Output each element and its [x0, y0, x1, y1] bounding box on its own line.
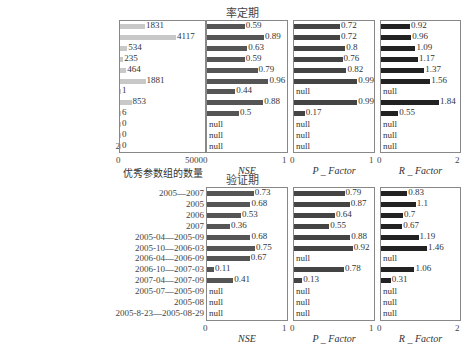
- bottom-title: 验证期: [226, 171, 259, 187]
- axis-label: P _ Factor: [293, 333, 375, 344]
- data-bar: [381, 35, 411, 40]
- data-bar: [120, 35, 176, 40]
- value-label: 464: [127, 64, 141, 74]
- data-bar: [207, 278, 233, 283]
- row-label: 2005-10—2006-03: [135, 243, 204, 253]
- value-label: 0.59: [246, 53, 262, 63]
- axis-tick: 0: [290, 323, 295, 333]
- null-label: null: [383, 141, 397, 151]
- null-label: null: [296, 141, 310, 151]
- value-label: 0.79: [259, 64, 275, 74]
- axis-tick: 0: [377, 323, 382, 333]
- top-title: 率定期: [226, 4, 259, 20]
- value-label: 0.68: [251, 231, 267, 241]
- axis-tick: 5000: [185, 155, 203, 165]
- data-bar: [294, 35, 340, 40]
- data-bar: [207, 246, 255, 251]
- null-label: null: [296, 86, 310, 96]
- data-bar: [207, 46, 247, 51]
- data-bar: [381, 46, 415, 51]
- value-label: 0.76: [344, 53, 360, 63]
- data-bar: [207, 111, 239, 116]
- data-bar: [207, 202, 250, 207]
- value-label: 1.84: [440, 96, 456, 106]
- data-bar: [381, 57, 418, 62]
- row-label: 2007-04—2007-09: [135, 275, 204, 285]
- null-label: null: [209, 297, 223, 307]
- null-label: null: [383, 253, 397, 263]
- data-bar: [120, 46, 127, 51]
- axis-tick: 0: [377, 155, 382, 165]
- value-label: 0.87: [351, 198, 367, 208]
- data-bar: [294, 224, 329, 229]
- value-label: 0.44: [236, 85, 252, 95]
- row-label: 2006-10—2007-03: [135, 264, 204, 274]
- row-label: 2006-04—2006-09: [135, 253, 204, 263]
- value-label: 0.53: [242, 209, 258, 219]
- data-bar: [294, 57, 343, 62]
- data-bar: [294, 24, 340, 29]
- null-label: null: [209, 141, 223, 151]
- value-label: 1: [122, 85, 127, 95]
- data-bar: [207, 256, 250, 261]
- value-label: 0.55: [330, 220, 346, 230]
- data-bar: [207, 213, 241, 218]
- data-bar: [207, 35, 264, 40]
- data-bar: [381, 224, 402, 229]
- null-label: null: [209, 308, 223, 318]
- null-label: null: [209, 130, 223, 140]
- value-label: 0.72: [341, 20, 357, 30]
- value-label: 1881: [147, 75, 165, 85]
- value-label: 0.64: [336, 209, 352, 219]
- row-label: 2005: [186, 199, 204, 209]
- row-label: 2005-08: [174, 297, 204, 307]
- data-bar: [294, 278, 302, 283]
- data-bar: [294, 46, 345, 51]
- null-label: null: [296, 286, 310, 296]
- data-bar: [120, 122, 121, 127]
- axis-label: P _ Factor: [293, 165, 375, 176]
- value-label: 0.96: [412, 31, 428, 41]
- axis-label: R _ Factor: [380, 333, 461, 344]
- value-label: 0.63: [248, 42, 264, 52]
- null-label: null: [296, 297, 310, 307]
- data-bar: [207, 24, 245, 29]
- value-label: 0.88: [351, 231, 367, 241]
- data-bar: [294, 246, 353, 251]
- null-label: null: [383, 130, 397, 140]
- axis-tick: 1: [369, 323, 374, 333]
- data-bar: [207, 68, 258, 73]
- axis-tick: 0: [290, 155, 295, 165]
- value-label: 0.13: [303, 274, 319, 284]
- data-bar: [381, 79, 430, 84]
- data-bar: [120, 79, 146, 84]
- data-bar: [381, 24, 410, 29]
- value-label: 0.7: [404, 209, 415, 219]
- value-label: 1.09: [416, 42, 432, 52]
- value-label: 0.8: [346, 42, 357, 52]
- row-label: 2006: [186, 210, 204, 220]
- data-bar: [120, 144, 121, 149]
- data-bar: [381, 111, 398, 116]
- value-label: 0.41: [234, 274, 250, 284]
- null-label: null: [296, 308, 310, 318]
- row-label: 2005-8-23—2005-08-29: [116, 308, 205, 318]
- null-label: null: [383, 119, 397, 129]
- value-label: 0.72: [341, 31, 357, 41]
- value-label: 1831: [146, 20, 164, 30]
- null-label: null: [383, 308, 397, 318]
- value-label: 1.56: [431, 75, 447, 85]
- value-label: 534: [128, 42, 142, 52]
- axis-tick: 2: [455, 323, 460, 333]
- data-bar: [207, 79, 268, 84]
- value-label: 1.37: [425, 64, 441, 74]
- axis-tick: 2: [455, 155, 460, 165]
- value-label: 0: [122, 118, 127, 128]
- value-label: 0.79: [346, 187, 362, 197]
- value-label: 0.59: [246, 20, 262, 30]
- value-label: 0.82: [347, 64, 363, 74]
- data-bar: [120, 133, 121, 138]
- value-label: 1.46: [428, 242, 444, 252]
- null-label: null: [209, 286, 223, 296]
- value-label: 0.31: [392, 274, 408, 284]
